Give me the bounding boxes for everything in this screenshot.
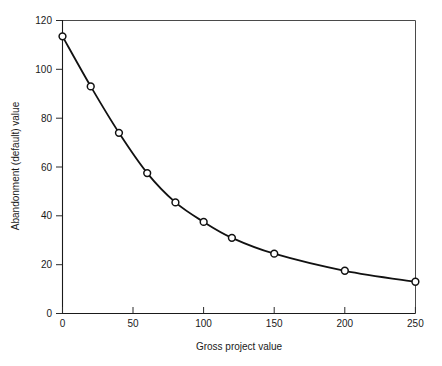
x-axis-ticks [63, 307, 416, 314]
y-axis-ticks [56, 21, 62, 314]
x-axis-tick-labels: 0 50 100 150 200 250 [60, 318, 424, 329]
x-axis-title: Gross project value [196, 341, 283, 352]
y-tick-label-40: 40 [41, 210, 53, 221]
y-axis-tick-labels: 120 100 80 60 40 20 0 [35, 15, 52, 319]
data-point [341, 267, 348, 274]
x-axis: 0 50 100 150 200 250 Gross project value [60, 307, 424, 352]
data-point [412, 278, 419, 285]
x-tick-label-100: 100 [195, 318, 212, 329]
data-point [116, 129, 123, 136]
line-chart-canvas: 120 100 80 60 40 20 0 Abandonment (defau… [0, 0, 442, 366]
data-point [172, 199, 179, 206]
x-tick-label-0: 0 [60, 318, 66, 329]
data-series-group [59, 33, 419, 285]
plot-frame [62, 21, 416, 314]
y-axis-title: Abandonment (default) value [10, 101, 21, 230]
data-point [87, 83, 94, 90]
data-point [271, 250, 278, 257]
data-point [144, 170, 151, 177]
x-tick-label-50: 50 [127, 318, 139, 329]
x-tick-label-200: 200 [336, 318, 353, 329]
y-tick-label-60: 60 [41, 162, 53, 173]
y-axis: 120 100 80 60 40 20 0 Abandonment (defau… [10, 15, 63, 319]
y-tick-label-80: 80 [41, 113, 53, 124]
y-tick-label-100: 100 [35, 64, 52, 75]
y-tick-label-0: 0 [46, 308, 52, 319]
x-tick-label-150: 150 [266, 318, 283, 329]
data-point [228, 234, 235, 241]
y-tick-label-20: 20 [41, 259, 53, 270]
y-tick-label-120: 120 [35, 15, 52, 26]
series-markers [59, 33, 419, 285]
data-point [200, 219, 207, 226]
data-point [59, 33, 66, 40]
x-tick-label-250: 250 [407, 318, 424, 329]
series-line [63, 36, 416, 281]
